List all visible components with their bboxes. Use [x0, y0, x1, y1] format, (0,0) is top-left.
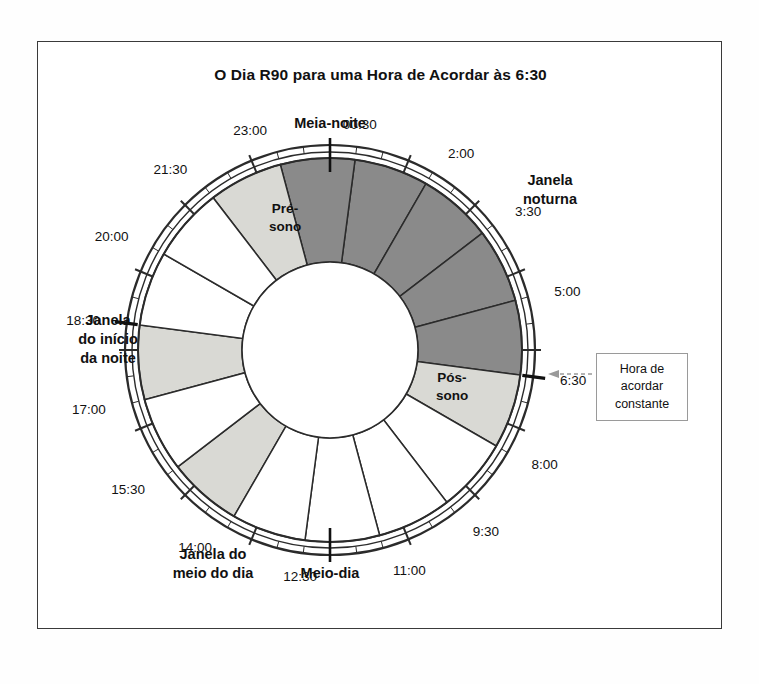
evening-window-label-3: da noite	[80, 350, 136, 366]
evening-window-label-2: do início	[78, 331, 138, 347]
tick-minor	[303, 147, 304, 154]
midday-window-label-2: meio do dia	[173, 565, 255, 581]
tick-label: 5:00	[554, 284, 580, 299]
tick-minor	[205, 507, 209, 513]
tick-minor	[205, 187, 209, 193]
tick-minor	[429, 521, 433, 527]
tick-minor	[501, 449, 507, 453]
midday-window-label-1: Janela do	[180, 546, 247, 562]
tick-major	[135, 269, 153, 276]
tick-minor	[152, 449, 158, 453]
callout-line-1: Hora de	[601, 361, 683, 378]
tick-major	[403, 155, 410, 173]
hub-circle	[242, 262, 418, 438]
tick-minor	[356, 546, 357, 553]
tick-major	[403, 527, 410, 545]
tick-major	[135, 423, 153, 430]
midnight-label: Meia-noite	[294, 115, 366, 131]
tick-minor	[381, 152, 383, 159]
tick-minor	[451, 187, 455, 193]
tick-label: 23:00	[233, 123, 267, 138]
tick-major	[249, 527, 256, 545]
wake-time-callout: Hora de acordar constante	[596, 353, 688, 421]
tick-minor	[521, 401, 528, 403]
tick-minor	[521, 297, 528, 299]
tick-label: 8:00	[531, 457, 557, 472]
tick-label: 6:30	[560, 373, 586, 388]
post-sleep-label-1: Pós-	[437, 370, 466, 385]
tick-label: 2:00	[448, 146, 474, 161]
tick-minor	[132, 297, 139, 299]
tick-minor	[167, 471, 173, 475]
tick-minor	[381, 541, 383, 548]
tick-label: 9:30	[473, 524, 499, 539]
tick-label: 11:00	[393, 563, 426, 578]
pre-sleep-label-2: sono	[269, 219, 301, 234]
noon-label: Meio-dia	[301, 565, 361, 581]
tick-label: 17:00	[72, 402, 106, 417]
tick-label: 15:30	[111, 482, 145, 497]
tick-minor	[487, 471, 493, 475]
figure-page: O Dia R90 para uma Hora de Acordar às 6:…	[0, 0, 759, 684]
tick-major	[507, 269, 525, 276]
tick-minor	[127, 376, 134, 377]
tick-minor	[228, 521, 232, 527]
tick-minor	[277, 152, 279, 159]
tick-label: 21:30	[153, 162, 187, 177]
tick-minor	[132, 401, 139, 403]
tick-minor	[356, 147, 357, 154]
tick-minor	[526, 323, 533, 324]
tick-minor	[152, 248, 158, 252]
tick-minor	[501, 248, 507, 252]
callout-line-2: acordar	[601, 378, 683, 395]
night-window-label-2: noturna	[523, 191, 578, 207]
pre-sleep-label-1: Pré-	[272, 201, 298, 216]
callout-line-3: constante	[601, 396, 683, 413]
tick-label: 20:00	[95, 229, 129, 244]
tick-minor	[429, 172, 433, 178]
tick-minor	[303, 546, 304, 553]
r90-clock-diagram: 00:302:003:305:006:308:009:3011:0012:301…	[0, 0, 759, 684]
tick-minor	[167, 225, 173, 229]
tick-minor	[487, 225, 493, 229]
tick-minor	[228, 172, 232, 178]
evening-window-label-1: Janela	[85, 312, 131, 328]
tick-major	[249, 155, 256, 173]
tick-minor	[277, 541, 279, 548]
post-sleep-label-2: sono	[436, 388, 468, 403]
night-window-label-1: Janela	[527, 172, 573, 188]
tick-minor	[451, 507, 455, 513]
tick-major	[507, 423, 525, 430]
